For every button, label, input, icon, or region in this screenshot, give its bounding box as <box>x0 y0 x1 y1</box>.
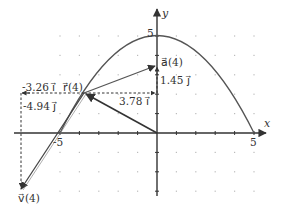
acceleration-vector-label: a⃗(4) <box>161 56 183 68</box>
vector-diagram: y x 5 5 -5 -3.26 i⃗ r⃗(4) -4.94 j⃗ 3.78 … <box>0 0 281 210</box>
acceleration-x-component-label: 3.78 i⃗ <box>119 95 150 107</box>
position-vector-label: r⃗(4) <box>62 81 83 93</box>
acceleration-y-component-label: 1.45 j⃗ <box>160 74 191 86</box>
velocity-x-component-label: -3.26 i⃗ <box>22 81 56 93</box>
acceleration-vector <box>84 66 155 93</box>
y-axis-label: y <box>161 7 169 20</box>
x-axis-label: x <box>264 117 271 130</box>
x-tick-5: 5 <box>250 136 257 148</box>
velocity-y-component-label: -4.94 j⃗ <box>23 100 57 112</box>
x-tick-neg5: -5 <box>53 136 63 148</box>
y-tick-5: 5 <box>147 27 154 39</box>
velocity-vector-label: v⃗(4) <box>18 192 40 204</box>
